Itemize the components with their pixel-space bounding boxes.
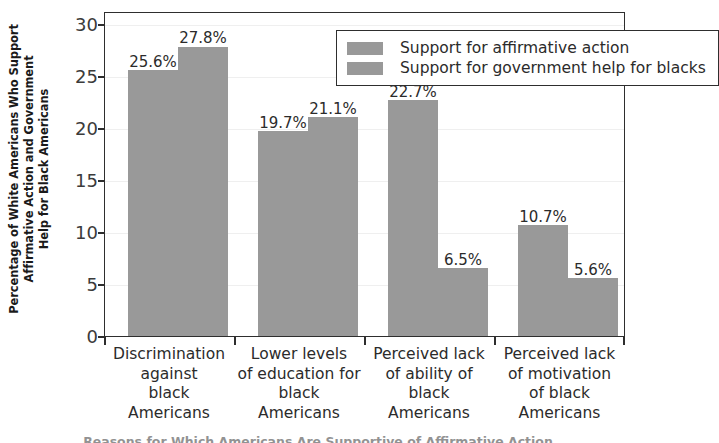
x-tickmark-3 (494, 337, 496, 345)
bar-ability-govhelp (438, 268, 488, 336)
x-category-discrimination-line-2: against (104, 365, 234, 385)
legend-label-government-help: Support for government help for blacks (400, 59, 706, 77)
x-category-education-line-2: of education for (234, 365, 364, 385)
y-tick-15: 15 (64, 170, 98, 191)
x-category-motivation-line-3: of black (494, 384, 625, 404)
bar-discrimination-govhelp (178, 47, 228, 336)
legend-item-government-help: Support for government help for blacks (347, 58, 706, 78)
x-category-ability-line-2: of ability of (364, 365, 494, 385)
x-tickmark-left (104, 337, 106, 345)
bar-motivation-govhelp (568, 278, 618, 336)
x-category-education-line-4: Americans (234, 404, 364, 424)
x-category-discrimination-line-3: black (104, 384, 234, 404)
x-category-motivation: Perceived lack of motivation of black Am… (494, 345, 625, 423)
value-label-education-govhelp: 21.1% (295, 100, 371, 118)
x-category-education-line-3: black (234, 384, 364, 404)
y-tick-0: 0 (64, 326, 98, 347)
chart-legend: Support for affirmative action Support f… (336, 30, 719, 86)
x-category-ability-line-4: Americans (364, 404, 494, 424)
gridline-30 (105, 25, 624, 26)
x-category-discrimination-line-1: Discrimination (104, 345, 234, 365)
y-tick-20: 20 (64, 118, 98, 139)
x-tickmark-2 (364, 337, 366, 345)
value-label-motivation-govhelp: 5.6% (559, 261, 627, 279)
x-category-ability-line-3: black (364, 384, 494, 404)
y-axis-title-line-2: Affirmative Action and Government (22, 55, 37, 282)
y-tick-25: 25 (64, 66, 98, 87)
y-axis-tick-labels: 0 5 10 15 20 25 30 (58, 0, 98, 340)
plot-area: 25.6% 27.8% 19.7% 21.1% 22.7% 6.5% 10.7%… (104, 12, 625, 337)
legend-label-affirmative-action: Support for affirmative action (400, 39, 629, 57)
x-category-motivation-line-1: Perceived lack (494, 345, 625, 365)
x-tickmark-right (623, 337, 625, 345)
bar-motivation-affirmative (518, 225, 568, 336)
x-category-discrimination: Discrimination against black Americans (104, 345, 234, 423)
y-tick-5: 5 (64, 274, 98, 295)
legend-item-affirmative-action: Support for affirmative action (347, 38, 706, 58)
y-tick-10: 10 (64, 222, 98, 243)
x-category-motivation-line-4: Americans (494, 404, 625, 424)
value-label-discrimination-affirmative: 25.6% (115, 53, 191, 71)
x-axis-title: Reasons for Which Americans Are Supporti… (0, 433, 636, 443)
bar-ability-affirmative (388, 100, 438, 336)
x-category-education: Lower levels of education for black Amer… (234, 345, 364, 423)
value-label-ability-govhelp: 6.5% (429, 251, 497, 269)
x-category-ability: Perceived lack of ability of black Ameri… (364, 345, 494, 423)
bar-education-affirmative (258, 131, 308, 336)
x-category-motivation-line-2: of motivation (494, 365, 625, 385)
y-axis-title-line-1: Percentage of White Americans Who Suppor… (7, 24, 22, 314)
y-axis-title: Percentage of White Americans Who Suppor… (0, 0, 58, 340)
bar-education-govhelp (308, 117, 358, 336)
value-label-motivation-affirmative: 10.7% (505, 208, 581, 226)
x-axis-category-labels: Discrimination against black Americans L… (104, 345, 625, 425)
y-tick-30: 30 (64, 14, 98, 35)
x-category-discrimination-line-4: Americans (104, 404, 234, 424)
legend-swatch-government-help (347, 62, 383, 75)
x-axis-title-text: Reasons for Which Americans Are Supporti… (83, 434, 553, 443)
x-category-education-line-1: Lower levels (234, 345, 364, 365)
bar-discrimination-affirmative (128, 70, 178, 336)
x-category-ability-line-1: Perceived lack (364, 345, 494, 365)
y-axis-title-line-3: Help for Black Americans (37, 89, 52, 250)
legend-swatch-affirmative-action (347, 42, 383, 55)
value-label-discrimination-govhelp: 27.8% (165, 29, 241, 47)
x-tickmark-1 (234, 337, 236, 345)
